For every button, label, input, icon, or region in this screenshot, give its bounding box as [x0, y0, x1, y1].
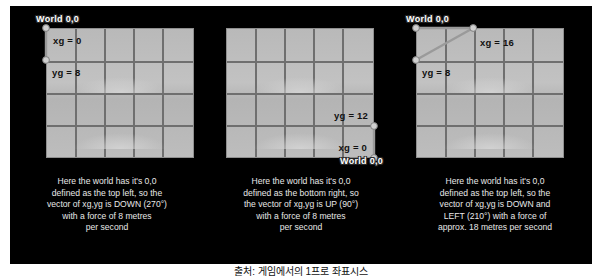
grid-2	[226, 28, 374, 158]
world-origin-label-3: World 0,0	[406, 14, 449, 24]
panel-caption-3: Here the world has it's 0,0 defined as t…	[406, 176, 584, 234]
footer-source-text: 출처: 게임에서의 1프로 좌표시스	[0, 264, 602, 278]
grid-container-2: yg = 12 xg = 0	[226, 28, 374, 158]
label-xg-3: xg = 16	[480, 37, 514, 48]
world-origin-label-2: World 0,0	[340, 156, 383, 166]
label-xg-1: xg = 0	[53, 35, 81, 46]
label-yg-1: yg = 8	[52, 67, 80, 78]
grid-1	[46, 28, 194, 158]
panel-caption-1: Here the world has it's 0,0 defined as t…	[18, 176, 196, 234]
label-xg-2: xg = 0	[339, 142, 367, 153]
label-yg-3: yg = 8	[422, 67, 450, 78]
panel-bottom-right-origin: yg = 12 xg = 0 World 0,0 Here the world …	[204, 6, 398, 264]
panel-top-left-diagonal: xg = 16 yg = 8 World 0,0 Here the world …	[398, 6, 592, 264]
world-origin-label-1: World 0,0	[36, 14, 79, 24]
grid-container-1: xg = 0 yg = 8	[46, 28, 194, 158]
panel-caption-2: Here the world has it's 0,0 defined as t…	[212, 176, 390, 234]
grid-container-3: xg = 16 yg = 8	[416, 28, 564, 158]
panel-row: xg = 0 yg = 8 World 0,0 Here the world h…	[10, 6, 592, 264]
label-yg-2: yg = 12	[334, 110, 368, 121]
slide-canvas: xg = 0 yg = 8 World 0,0 Here the world h…	[10, 6, 592, 264]
panel-top-left-origin: xg = 0 yg = 8 World 0,0 Here the world h…	[10, 6, 204, 264]
